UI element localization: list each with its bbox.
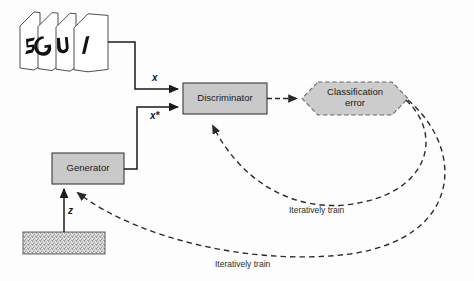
edge-label-x-star: x*: [150, 110, 159, 122]
diagram-canvas: Discriminator Generator Classification e…: [0, 0, 474, 281]
generator-label: Generator: [52, 163, 124, 174]
iteratively-train-label-inner: Iteratively train: [289, 206, 344, 216]
edge-error-to-generator: [78, 100, 445, 257]
diagram-svg: [0, 0, 474, 281]
iteratively-train-label-outer: Iteratively train: [215, 260, 270, 270]
edge-error-to-discriminator: [213, 100, 426, 206]
edge-label-x: x: [152, 72, 158, 84]
edge-real-to-discriminator: [108, 42, 178, 89]
real-image-stack: [20, 12, 108, 72]
classification-error-label-line2: error: [302, 98, 408, 109]
noise-label-z: z: [68, 205, 73, 217]
noise-source: [23, 232, 105, 254]
discriminator-label: Discriminator: [183, 93, 267, 104]
